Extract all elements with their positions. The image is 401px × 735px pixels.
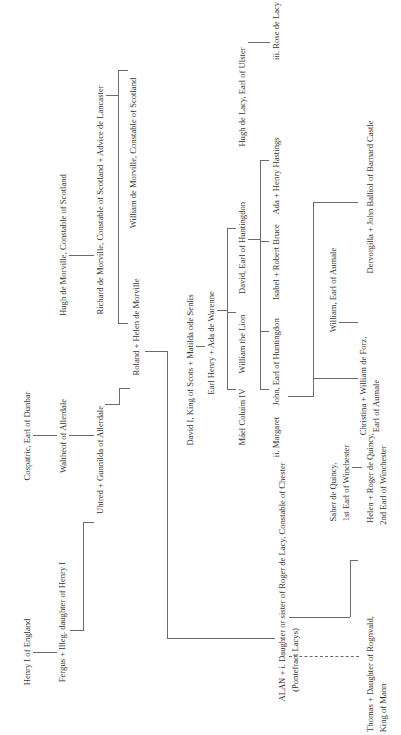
node-william-lion: William the Lion [237, 315, 247, 374]
node-fergus: Fergus + Illeg. daughter of Henry I [57, 562, 67, 682]
connector [70, 630, 83, 631]
node-thomas-line1: Thomas + Daughter of Rognvald, [365, 616, 375, 732]
connector [167, 351, 168, 639]
node-henry-i: Henry I of England [22, 619, 32, 686]
node-helen-line2: 2nd Earl of Winchester [378, 445, 388, 524]
connector [33, 652, 57, 653]
connector [227, 389, 236, 390]
connector [196, 346, 205, 347]
node-william-morville: William de Morville, Constable of Scotla… [128, 78, 138, 229]
connector [260, 331, 269, 332]
node-christina-line2: Earl of Aumale [371, 380, 381, 433]
connector [106, 95, 118, 96]
node-margaret: ii. Margaret [271, 417, 281, 457]
connector [118, 70, 128, 71]
node-david-huntingdon: David, Earl of Huntingdon [237, 202, 247, 294]
connector [313, 378, 358, 379]
connector [167, 638, 275, 639]
node-waltheof: Waltheof of Allerdale [58, 399, 68, 473]
connector [227, 228, 236, 229]
connector [260, 160, 261, 390]
dashed-connector [289, 656, 359, 657]
node-david-i: David I, King of Scots + Matilda ode Sen… [185, 294, 195, 445]
connector [313, 202, 358, 203]
connector [69, 255, 94, 256]
node-mael-coluim: Máel Coluim IV [237, 389, 247, 446]
connector [118, 323, 128, 324]
node-hugh-lacy: Hugh de Lacy, Earl of Ulster [237, 47, 247, 146]
connector [145, 351, 167, 352]
connector [119, 388, 130, 389]
node-isabel: Isabel + Robert Bruce [271, 224, 281, 300]
connector [33, 435, 57, 436]
node-earl-henry: Earl Henry + Ada de Warenne [206, 291, 216, 395]
connector [260, 160, 269, 161]
connector [227, 312, 236, 313]
node-saher-line2: 1st Earl of Winchester [341, 445, 351, 522]
node-helen-line1: Helen + Roger de Quincy, [365, 433, 375, 523]
node-john-huntingdon: John, Earl of Huntingdon [271, 318, 281, 405]
connector [69, 435, 94, 436]
connector [288, 396, 313, 397]
connector [105, 404, 119, 405]
connector [352, 467, 362, 468]
node-roland: Roland + Helen de Morville [131, 279, 141, 376]
connector [248, 42, 270, 43]
connector [83, 522, 94, 523]
connector [260, 241, 269, 242]
node-hugh-morville: Hugh de Morville, Constable of Scotland [58, 174, 68, 316]
node-rose-lacy: iii. Rose de Lacy [271, 2, 281, 60]
connector [83, 522, 84, 631]
connector [313, 202, 314, 397]
connector [350, 560, 351, 617]
node-saher-line1: Saher de Quincy, [328, 463, 338, 522]
node-thomas-line2: King of Mann [378, 684, 388, 733]
connector [289, 617, 350, 618]
node-alan: ALAN + i. Daughter or sister of Roger de… [277, 462, 287, 701]
connector [339, 322, 358, 323]
connector [227, 228, 228, 390]
node-william-aumale: William, Earl of Aumale [328, 248, 338, 333]
node-ada: Ada + Henry Hastings [271, 137, 281, 214]
node-dervorgilla: Dervorgilla + John Balliol of Barnard Ca… [365, 120, 375, 273]
node-christina-line1: Christina + William de Forz, [358, 337, 368, 436]
connector [119, 388, 120, 405]
node-richard-morville: Richard de Morville, Constable of Scotla… [95, 85, 105, 314]
connector [118, 70, 119, 324]
node-uhtred: Uhtred + Gunnilda of Allerdale [95, 406, 105, 514]
node-cospatric: Cospatric, Earl of Dunbar [22, 392, 32, 481]
connector [260, 389, 269, 390]
connector [350, 560, 358, 561]
node-pontefract: (Pontefract Lacys) [290, 628, 300, 692]
